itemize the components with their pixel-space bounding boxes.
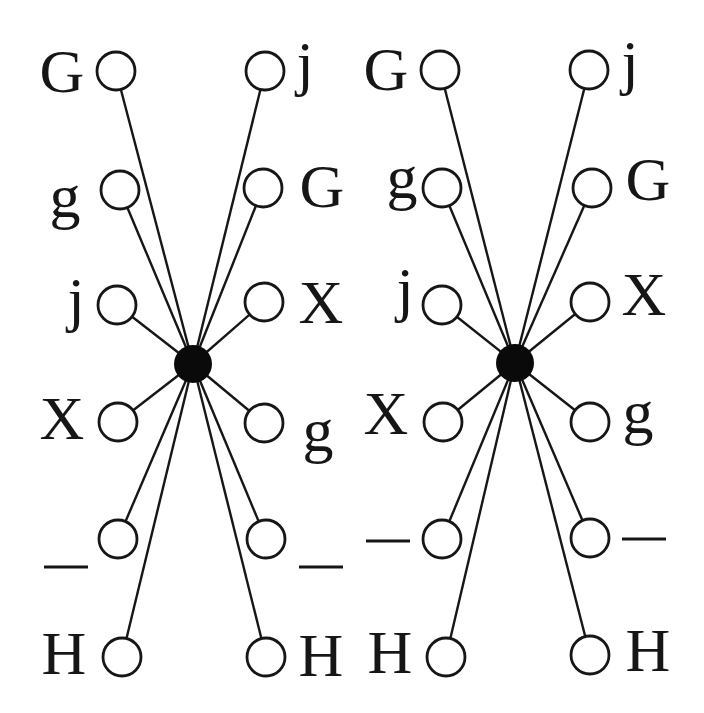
leaf-node-circle — [571, 519, 609, 557]
leaf-node-circle — [571, 283, 609, 321]
node-label: H — [299, 621, 344, 689]
node-label: G — [300, 152, 345, 220]
left-graph: GjgGjXXgHH — [40, 29, 345, 689]
leaf-node-circle — [99, 403, 137, 441]
edge-line — [120, 190, 193, 364]
leaf-node-circle — [247, 638, 285, 676]
node-label: X — [364, 379, 409, 447]
leaf-node-circle — [97, 52, 135, 90]
leaf-node-circle — [571, 403, 609, 441]
node-label: j — [394, 255, 413, 323]
node-label: X — [622, 260, 667, 328]
node-label: G — [40, 37, 85, 105]
leaf-node-circle — [245, 404, 283, 442]
edge-line — [193, 188, 263, 364]
node-label: G — [626, 145, 671, 213]
node-label: G — [364, 35, 409, 103]
leaf-node-circle — [423, 286, 461, 324]
center-node — [174, 345, 212, 383]
leaf-node-circle — [99, 520, 137, 558]
leaf-node-circle — [246, 52, 284, 90]
center-node — [496, 344, 534, 382]
leaf-node-circle — [570, 51, 608, 89]
node-label: j — [294, 29, 313, 97]
leaf-node-circle — [101, 171, 139, 209]
leaf-node-circle — [573, 169, 611, 207]
edge-line — [193, 71, 265, 364]
leaf-node-circle — [427, 638, 465, 676]
star-graphs-canvas: GjgGjXXgHHGjgGjXXgHH — [0, 0, 704, 713]
node-label: X — [40, 384, 85, 452]
edge-line — [118, 364, 193, 539]
leaf-node-circle — [423, 169, 461, 207]
node-label: H — [626, 616, 671, 684]
right-graph: GjgGjXXgHH — [364, 28, 671, 686]
edge-line — [442, 188, 515, 363]
leaf-node-circle — [421, 51, 459, 89]
node-label: g — [303, 396, 334, 464]
edge-line — [442, 363, 515, 539]
node-label: j — [619, 28, 638, 96]
leaf-node-circle — [423, 520, 461, 558]
leaf-node-circle — [244, 169, 282, 207]
leaf-node-circle — [571, 636, 609, 674]
node-label: g — [50, 162, 81, 230]
node-label: H — [368, 618, 413, 686]
leaf-node-circle — [424, 403, 462, 441]
node-label: g — [623, 378, 654, 446]
leaf-node-circle — [247, 520, 285, 558]
node-label: H — [42, 619, 87, 687]
node-label: g — [387, 143, 418, 211]
node-label: X — [299, 268, 344, 336]
node-label: j — [65, 265, 84, 333]
leaf-node-circle — [98, 286, 136, 324]
edge-line — [515, 70, 589, 363]
leaf-node-circle — [103, 638, 141, 676]
leaf-node-circle — [245, 283, 283, 321]
diagram-stage: GjgGjXXgHHGjgGjXXgHH — [0, 0, 704, 713]
